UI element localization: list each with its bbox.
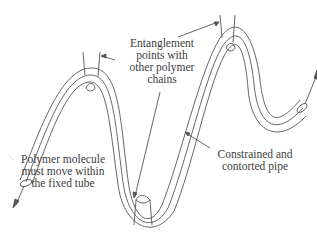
polymer-molecule-label: Polymer molecule must move within the fi… <box>20 153 106 189</box>
label-line: Entanglement <box>118 37 206 49</box>
label-line: Constrained and <box>205 148 305 160</box>
label-line: contorted pipe <box>205 160 305 172</box>
stray-mark <box>8 155 14 160</box>
label-line: points with <box>118 49 206 61</box>
label-line: chains <box>118 73 206 85</box>
constrained-pipe-label: Constrained and contorted pipe <box>205 148 305 172</box>
arrow-up-right-icon <box>305 70 317 104</box>
arrow-down-left-icon <box>13 186 24 208</box>
leader-entanglement-left <box>101 54 115 60</box>
label-line: Polymer molecule <box>20 153 106 165</box>
reptation-diagram <box>0 0 317 238</box>
entanglement-points-label: Entanglement points with other polymer c… <box>118 37 206 85</box>
leader-entanglement-bottom <box>133 92 160 198</box>
label-line: other polymer <box>118 61 206 73</box>
label-line: must move within <box>20 165 106 177</box>
leader-entanglement-top <box>178 22 219 37</box>
label-line: the fixed tube <box>20 177 106 189</box>
tube-end-cap-right <box>295 102 308 114</box>
